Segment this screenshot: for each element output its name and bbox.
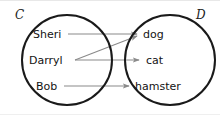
element-hamster: hamster [135,81,181,92]
mapping-diagram-canvas: C D Sheri Darryl Bob dog cat hamster [0,0,220,115]
element-cat: cat [146,55,163,66]
set-label-c: C [15,9,24,21]
element-dog: dog [143,29,164,40]
element-darryl: Darryl [29,55,63,66]
arrow-group [64,34,139,86]
element-sheri: Sheri [33,29,61,40]
element-bob: Bob [36,81,57,92]
set-label-d: D [196,9,206,21]
